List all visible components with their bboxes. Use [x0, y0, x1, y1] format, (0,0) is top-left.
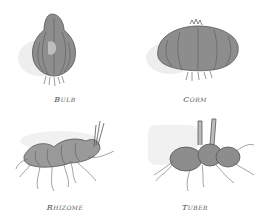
panel-corm: Corm: [130, 0, 260, 111]
panel-rhizome: Rhizome: [0, 111, 130, 222]
panel-bulb: Bulb: [0, 0, 130, 111]
panel-tuber: Tuber: [130, 111, 260, 222]
tuber-label: Tuber: [130, 203, 260, 212]
bulb-label: Bulb: [0, 95, 130, 104]
corm-label: Corm: [130, 95, 260, 104]
rhizome-label: Rhizome: [0, 203, 130, 212]
